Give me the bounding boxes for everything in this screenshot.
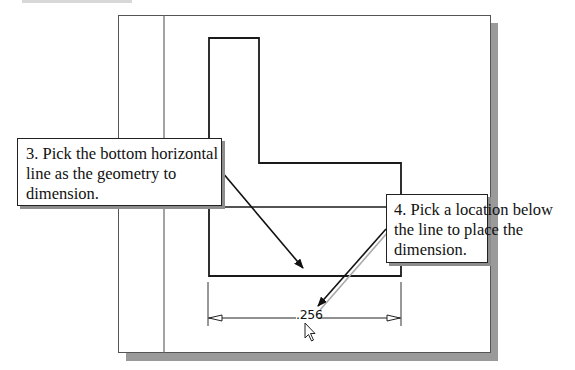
leader-arrow-4 — [318, 229, 386, 306]
callout-step-4: 4. Pick a location below the line to pla… — [386, 194, 488, 263]
dimension-arrow-left-icon — [209, 315, 222, 321]
leader-arrow-4-shadow — [320, 232, 388, 310]
callout-4-line-3: dimension. — [394, 240, 480, 260]
callout-3-line-1: 3. Pick the bottom horizontal — [26, 144, 213, 164]
callout-4-line-2: the line to place the — [394, 220, 480, 240]
dimension-arrow-right-icon — [387, 315, 400, 321]
callout-3-line-2: line as the geometry to — [26, 164, 213, 184]
l-shape-profile[interactable] — [209, 38, 401, 276]
callout-4-line-1: 4. Pick a location below — [394, 200, 480, 220]
figure-canvas: .256 3. Pick the bottom horizontal line … — [0, 0, 575, 370]
arrow-cursor-icon — [305, 323, 315, 341]
callout-3-line-3: dimension. — [26, 184, 213, 204]
callout-step-3: 3. Pick the bottom horizontal line as th… — [17, 138, 222, 206]
leader-arrow-3 — [222, 172, 303, 268]
dimension-value[interactable]: .256 — [296, 307, 323, 322]
